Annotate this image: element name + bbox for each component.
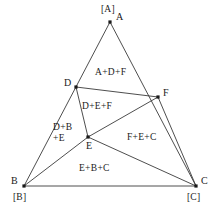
edge-d-f bbox=[76, 87, 158, 97]
vertex-dot-c bbox=[194, 184, 197, 187]
corner-bracket-a: [A] bbox=[101, 4, 115, 14]
region-def-label: D+E+F bbox=[82, 101, 112, 111]
region-ebc-label: E+B+C bbox=[79, 163, 110, 173]
region-adf-line-0: A+D+F bbox=[95, 67, 126, 77]
corner-bracket-b: [B] bbox=[13, 192, 26, 202]
region-def-line-0: D+E+F bbox=[82, 101, 112, 111]
region-dbe-label: D+B+E bbox=[53, 122, 72, 143]
vertex-label-d: D bbox=[64, 78, 71, 88]
vertex-dot-a bbox=[108, 20, 111, 23]
region-dbe-line-0: D+B bbox=[53, 122, 72, 133]
region-ebc-line-0: E+B+C bbox=[79, 163, 110, 173]
edge-f-c bbox=[158, 97, 196, 186]
vertex-label-c: C bbox=[201, 176, 208, 186]
region-adf-label: A+D+F bbox=[95, 67, 126, 77]
edge-e-c bbox=[88, 137, 196, 186]
vertex-label-f: F bbox=[163, 88, 169, 98]
vertex-dot-b bbox=[22, 184, 25, 187]
vertex-label-a: A bbox=[116, 12, 123, 22]
vertex-dot-d bbox=[74, 85, 77, 88]
edge-a-c bbox=[110, 22, 196, 186]
region-fec-line-0: F+E+C bbox=[127, 132, 157, 142]
edge-d-e bbox=[76, 87, 88, 137]
triangle-region-diagram: ABCDEF[A][B][C]A+D+FD+E+FD+B+EF+E+CE+B+C bbox=[0, 0, 222, 217]
region-dbe-line-1: +E bbox=[53, 133, 72, 144]
vertex-dot-f bbox=[156, 95, 159, 98]
vertex-label-e: E bbox=[86, 141, 92, 151]
corner-bracket-c: [C] bbox=[187, 192, 200, 202]
region-fec-label: F+E+C bbox=[127, 132, 157, 142]
vertex-dot-e bbox=[86, 135, 89, 138]
vertex-label-b: B bbox=[11, 176, 18, 186]
edge-e-b bbox=[24, 137, 88, 186]
